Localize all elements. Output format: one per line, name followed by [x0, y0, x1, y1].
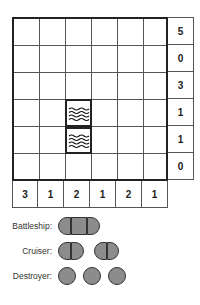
grid-cell-r3-c2-water[interactable] — [65, 99, 92, 127]
row-clue-4: 1 — [168, 126, 194, 153]
grid-cell-r5-c3[interactable] — [92, 154, 118, 179]
col-clue-2: 2 — [64, 181, 90, 208]
col-clue-3: 1 — [90, 181, 116, 208]
grid-cell-r2-c5[interactable] — [144, 73, 166, 100]
grid-cell-r0-c4[interactable] — [118, 19, 144, 46]
row-clue-0: 5 — [168, 17, 194, 45]
grid-cell-r3-c4[interactable] — [118, 100, 144, 127]
grid-cell-r4-c0[interactable] — [14, 127, 40, 154]
game-board — [12, 17, 168, 181]
grid-cell-r5-c5[interactable] — [144, 154, 166, 179]
battleship-left-end-icon — [58, 217, 71, 235]
grid-cell-r4-c5[interactable] — [144, 127, 166, 154]
grid-cell-r3-c1[interactable] — [40, 100, 66, 127]
grid-cell-r4-c3[interactable] — [92, 127, 118, 154]
destroyer-3-icon — [108, 267, 126, 285]
grid-cell-r1-c0[interactable] — [14, 46, 40, 73]
cruiser-2-left-end-icon — [94, 242, 107, 260]
destroyer-2-icon — [83, 267, 101, 285]
grid-cell-r2-c2[interactable] — [66, 73, 92, 100]
col-clue-0: 3 — [12, 181, 38, 208]
grid-cell-r0-c2[interactable] — [66, 19, 92, 46]
grid-cell-r4-c4[interactable] — [118, 127, 144, 154]
cruiser-1-left-end-icon — [58, 242, 71, 260]
grid-cell-r3-c0[interactable] — [14, 100, 40, 127]
battleship-middle-icon — [71, 217, 87, 235]
battleship-right-end-icon — [87, 217, 100, 235]
grid-cell-r0-c0[interactable] — [14, 19, 40, 46]
grid-cell-r1-c4[interactable] — [118, 46, 144, 73]
grid-cell-r5-c0[interactable] — [14, 154, 40, 179]
grid-cell-r2-c0[interactable] — [14, 73, 40, 100]
grid-cell-r0-c1[interactable] — [40, 19, 66, 46]
cruiser-2-right-end-icon — [107, 242, 119, 260]
grid-cell-r4-c2-water[interactable] — [65, 127, 92, 154]
grid-cell-r1-c1[interactable] — [40, 46, 66, 73]
grid-cell-r2-c3[interactable] — [92, 73, 118, 100]
cruiser-1-right-end-icon — [71, 242, 84, 260]
grid-cell-r5-c2[interactable] — [66, 154, 92, 179]
grid-cell-r5-c4[interactable] — [118, 154, 144, 179]
grid-cell-r5-c1[interactable] — [40, 154, 66, 179]
row-clue-3: 1 — [168, 99, 194, 126]
col-clue-1: 1 — [38, 181, 64, 208]
destroyer-1-icon — [58, 267, 76, 285]
grid-cell-r3-c3[interactable] — [92, 100, 118, 127]
water-icon — [67, 101, 90, 125]
row-clue-1: 0 — [168, 45, 194, 72]
grid-cell-r1-c3[interactable] — [92, 46, 118, 73]
row-clue-5: 0 — [168, 153, 194, 180]
col-clue-4: 2 — [116, 181, 142, 208]
grid-cell-r1-c5[interactable] — [144, 46, 166, 73]
col-clue-5: 1 — [142, 181, 168, 208]
grid-cell-r2-c1[interactable] — [40, 73, 66, 100]
grid-cell-r3-c5[interactable] — [144, 100, 166, 127]
row-clue-2: 3 — [168, 72, 194, 99]
destroyer-label: Destroyer: — [4, 271, 52, 281]
grid-cell-r1-c2[interactable] — [66, 46, 92, 73]
grid-cell-r0-c3[interactable] — [92, 19, 118, 46]
grid-cell-r4-c1[interactable] — [40, 127, 66, 154]
battleship-label: Battleship: — [4, 221, 52, 231]
cruiser-label: Cruiser: — [4, 246, 52, 256]
grid-cell-r0-c5[interactable] — [144, 19, 166, 46]
grid-cell-r2-c4[interactable] — [118, 73, 144, 100]
water-icon — [67, 129, 90, 152]
